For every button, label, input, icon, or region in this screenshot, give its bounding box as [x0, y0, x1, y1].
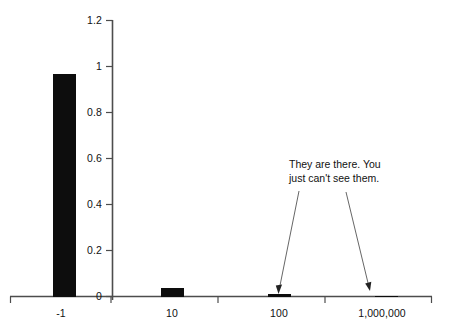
x-tick-label-minus-1: -1 — [41, 307, 81, 319]
x-tick-label-10: 10 — [152, 307, 192, 319]
y-tick-label-0.8: 0.8 — [72, 106, 102, 118]
annotation-text: They are there. You just can't see them. — [289, 158, 381, 185]
x-tick-label-100: 100 — [259, 307, 299, 319]
y-tick-label-0.4: 0.4 — [72, 198, 102, 210]
annotation-line-1: They are there. You — [289, 158, 381, 172]
y-tick-label-0.6: 0.6 — [72, 152, 102, 164]
annotation-arrow-right — [346, 192, 371, 291]
annotation-arrow-left — [276, 191, 299, 294]
annotation-line-2: just can't see them. — [289, 172, 381, 186]
bar-chart: 1.2 1 0.8 0.6 0.4 0.2 0 -1 10 100 1,000,… — [0, 0, 449, 335]
y-tick-label-1.2: 1.2 — [72, 14, 102, 26]
x-tick-label-1000000: 1,000,000 — [352, 307, 412, 319]
bar-10 — [161, 288, 184, 297]
bar-1000000 — [375, 296, 398, 297]
y-tick-label-0.2: 0.2 — [72, 244, 102, 256]
y-tick-label-0: 0 — [72, 290, 102, 302]
bar-100 — [268, 294, 291, 297]
y-tick-label-1: 1 — [72, 60, 102, 72]
